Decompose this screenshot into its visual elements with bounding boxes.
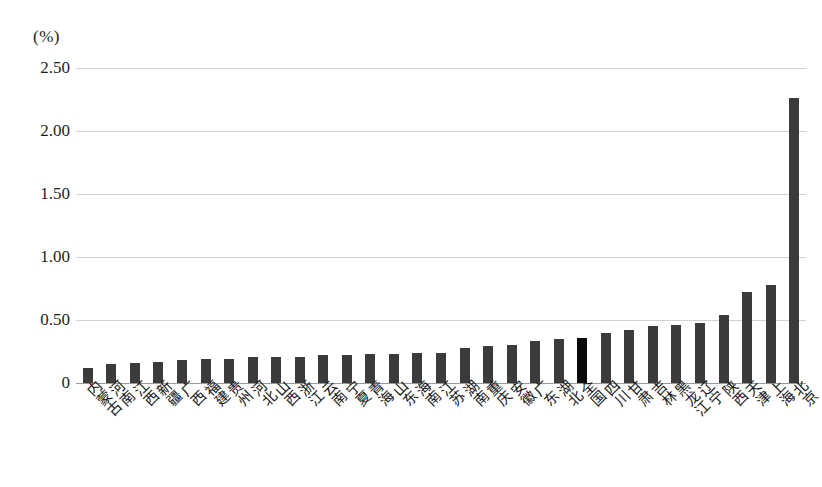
- y-axis-tick-label: 2.50: [8, 58, 70, 78]
- y-axis-tick-labels: 00.501.001.502.002.50: [0, 68, 70, 383]
- bar: [530, 341, 540, 383]
- bar: [671, 325, 681, 383]
- bar: [695, 323, 705, 383]
- y-axis-unit-label: (%): [33, 27, 60, 47]
- x-axis-tick-labels: 内蒙古河南江西新疆广西福建贵州河北山西浙江云南宁夏青海山东海南江苏湖南重庆安徽广…: [76, 384, 806, 487]
- x-axis-tick-label: 甘肃: [623, 379, 654, 410]
- bar: [766, 285, 776, 383]
- bars-series: [76, 68, 806, 383]
- x-axis-tick-label: 宁夏: [341, 379, 372, 410]
- y-axis-tick-label: 2.00: [8, 121, 70, 141]
- x-axis-tick-label: 海南: [412, 379, 443, 410]
- x-axis-tick-label: 云南: [317, 379, 348, 410]
- x-axis-tick-label: 重庆: [482, 379, 513, 410]
- x-axis-tick-label: 山东: [388, 379, 419, 410]
- x-axis-tick-label: 安徽: [506, 379, 537, 410]
- x-axis-tick-label: 河北: [247, 379, 278, 410]
- bar: [554, 339, 564, 383]
- x-axis-tick-label: 湖北: [553, 379, 584, 410]
- bar: [507, 345, 517, 383]
- bar: [742, 292, 752, 383]
- x-axis-tick-label: 天津: [741, 379, 772, 410]
- x-axis-tick-label: 陕西: [718, 379, 749, 410]
- bar: [460, 348, 470, 383]
- x-axis-tick-label: 北京: [788, 379, 819, 410]
- plot-area: [76, 68, 806, 383]
- bar-chart: (%) 00.501.001.502.002.50 内蒙古河南江西新疆广西福建贵…: [0, 0, 822, 487]
- x-axis-tick-label: 广东: [529, 379, 560, 410]
- y-axis-tick-label: 0.50: [8, 310, 70, 330]
- bar: [483, 346, 493, 383]
- x-axis-tick-label: 吉林: [647, 379, 678, 410]
- x-axis-tick-label: 湖南: [459, 379, 490, 410]
- bar: [577, 338, 587, 383]
- x-axis-tick-label: 福建: [200, 379, 231, 410]
- x-axis-tick-label: 新疆: [153, 379, 184, 410]
- x-axis-tick-label: 广西: [176, 379, 207, 410]
- x-axis-tick-label: 全国: [576, 379, 607, 410]
- x-axis-tick-label: 青海: [364, 379, 395, 410]
- bar: [648, 326, 658, 383]
- bar: [601, 333, 611, 383]
- bar: [624, 330, 634, 383]
- x-axis-tick-label: 山西: [270, 379, 301, 410]
- bar: [719, 315, 729, 383]
- y-axis-tick-label: 1.00: [8, 247, 70, 267]
- x-axis-tick-label: 江苏: [435, 379, 466, 410]
- x-axis-tick-label: 浙江: [294, 379, 325, 410]
- x-axis-tick-label: 江西: [129, 379, 160, 410]
- x-axis-tick-label: 贵州: [223, 379, 254, 410]
- y-axis-tick-label: 0: [8, 373, 70, 393]
- bar: [789, 98, 799, 383]
- y-axis-tick-label: 1.50: [8, 184, 70, 204]
- x-axis-tick-label: 上海: [765, 379, 796, 410]
- x-axis-tick-label: 四川: [600, 379, 631, 410]
